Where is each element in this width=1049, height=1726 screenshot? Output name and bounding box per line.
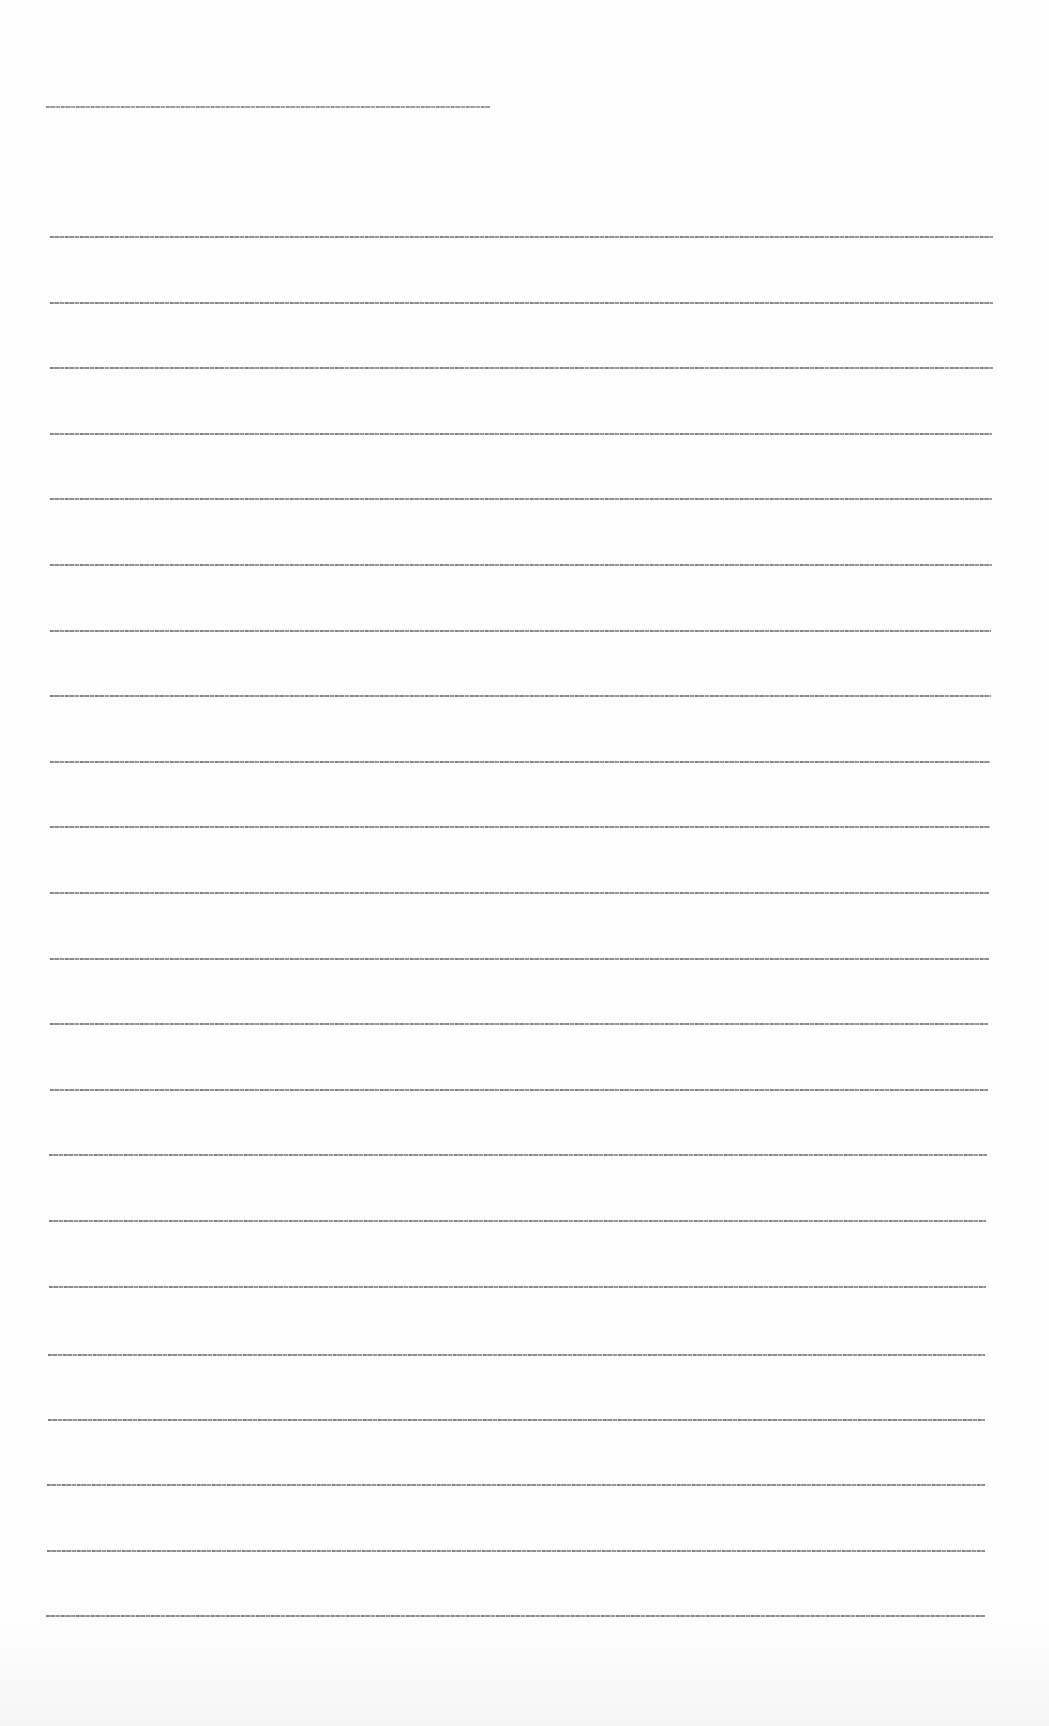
text-line: [illegible] xyxy=(50,695,991,697)
text-line: [illegible] xyxy=(50,892,989,894)
text-line: [illegible] xyxy=(50,1023,988,1025)
text-line: [illegible] xyxy=(50,433,992,435)
text-line: [illegible] xyxy=(50,1089,988,1091)
text-line: [illegible] xyxy=(49,1286,986,1288)
text-line: [illegible] xyxy=(50,761,990,763)
document-page: [illegible] [illegible][illegible][illeg… xyxy=(0,0,1049,1726)
text-line: [illegible] xyxy=(50,498,992,500)
heading-line: [illegible] xyxy=(46,106,490,108)
text-line: [illegible] xyxy=(50,236,993,238)
text-line: [illegible] xyxy=(48,1354,985,1356)
text-line: [illegible] xyxy=(50,826,990,828)
text-line: [illegible] xyxy=(50,367,993,369)
text-line: [illegible] xyxy=(48,1419,985,1421)
text-line: [illegible] xyxy=(50,630,991,632)
text-line: [illegible] xyxy=(49,1154,987,1156)
scan-noise xyxy=(0,1616,1049,1726)
text-line: [illegible] xyxy=(47,1484,985,1486)
text-line: [illegible] xyxy=(49,1220,986,1222)
text-line: [illegible] xyxy=(50,564,992,566)
text-line: [illegible] xyxy=(47,1550,985,1552)
text-line: [illegible] xyxy=(50,958,989,960)
text-line: [illegible] xyxy=(50,302,993,304)
